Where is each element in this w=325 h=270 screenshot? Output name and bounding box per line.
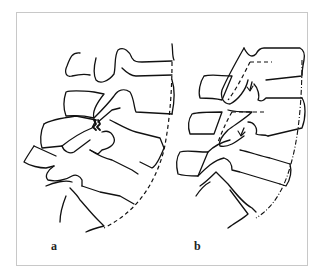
spine-illustration: [0, 0, 325, 270]
panel-label-b: b: [194, 239, 201, 254]
panel-a-drawing: [24, 44, 174, 232]
panel-b-drawing: [177, 48, 305, 228]
panel-label-a: a: [51, 239, 57, 254]
